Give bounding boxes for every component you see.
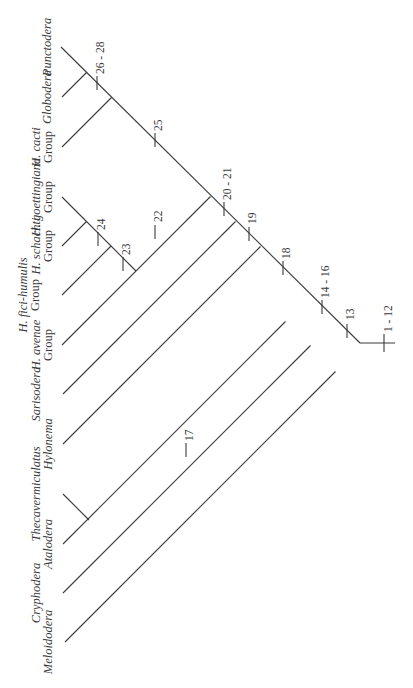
branch-atalodera: [63, 322, 286, 545]
branch-h-cacti: [62, 98, 112, 148]
branch-cryphodera: [63, 346, 311, 594]
taxon-meloidodera: Meloidodera: [41, 610, 55, 676]
branch-globodera: [62, 73, 87, 98]
branch-hylonema: [63, 247, 261, 445]
char-label: 24: [95, 218, 107, 230]
char-label: 14 - 16: [319, 265, 331, 298]
char-label: 18: [280, 247, 292, 259]
char-label: 22: [152, 210, 164, 222]
character-labels: 1 - 12 13 14 - 16 17 18 19 20 - 21 22 23…: [94, 41, 394, 441]
group-h-fici: Group: [28, 279, 42, 311]
taxon-atalodera: Atalodera: [41, 519, 55, 570]
taxon-hylonema: Hylonema: [41, 418, 55, 470]
branch-h-schachti: [62, 222, 87, 247]
group-h-schachti: Group: [41, 230, 55, 262]
branch-h-fici: [62, 246, 111, 295]
branch-sarisodera: [63, 222, 236, 395]
char-label: 26 - 28: [94, 41, 106, 74]
main-spine: [61, 47, 360, 343]
branch-meloidodera: [65, 372, 336, 643]
branch-h-goettingiana: [62, 197, 136, 271]
group-h-goettingiana: Group: [41, 181, 55, 213]
taxon-labels: Punctodera Globodera H. cacti Group H. g…: [16, 18, 55, 675]
char-label: 23: [120, 243, 132, 255]
char-label: 19: [246, 212, 258, 224]
group-h-avenae: Group: [41, 329, 55, 361]
group-h-cacti: Group: [41, 131, 55, 163]
char-label: 1 - 12: [382, 305, 394, 332]
char-label: 13: [344, 308, 356, 320]
taxon-punctodera: Punctodera: [40, 18, 54, 77]
taxon-globodera: Globodera: [40, 70, 54, 124]
branch-thecavermiculatus: [63, 494, 89, 520]
char-label: 20 - 21: [221, 167, 233, 200]
char-label: 25: [152, 119, 164, 131]
char-label: 17: [183, 429, 195, 441]
taxon-sarisodera: Sarisodera: [29, 367, 43, 422]
cladogram: 1 - 12 13 14 - 16 17 18 19 20 - 21 22 23…: [0, 0, 413, 688]
